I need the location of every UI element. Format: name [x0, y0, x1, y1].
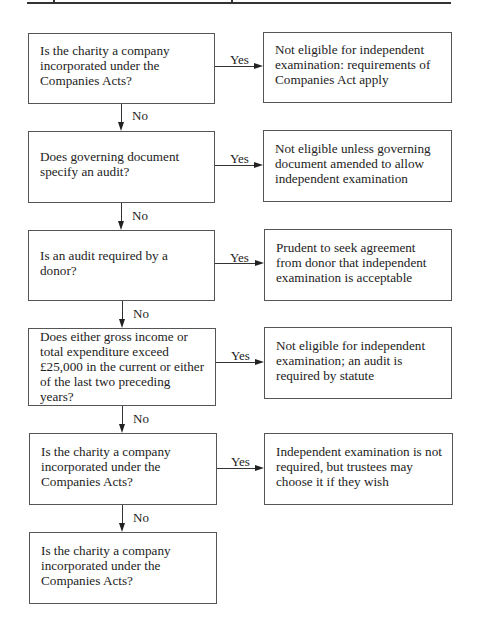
arrow-right-icon: [254, 63, 263, 69]
question-text: Does either gross income or total expend…: [40, 329, 205, 404]
no-connector: [122, 505, 123, 524]
outcome-text: Not eligible for independent examination…: [276, 338, 425, 383]
arrow-down-icon: [119, 523, 125, 532]
outcome-box-4: Not eligible for independent examination…: [264, 327, 452, 399]
question-box-1: Is the charity a company incorporated un…: [28, 33, 215, 104]
question-box-3: Is an audit required by a donor?: [28, 230, 215, 301]
outcome-text: Prudent to seek agreement from donor tha…: [276, 240, 427, 285]
question-box-6: Is the charity a company incorporated un…: [29, 532, 217, 604]
question-box-5: Is the charity a company incorporated un…: [29, 433, 217, 505]
no-label: No: [132, 109, 148, 123]
question-text: Is the charity a company incorporated un…: [41, 444, 171, 489]
no-label: No: [133, 511, 149, 525]
outcome-box-5: Independent examination is not required,…: [264, 433, 453, 505]
arrow-down-icon: [118, 122, 124, 131]
outcome-text: Independent examination is not required,…: [276, 444, 442, 489]
question-text: Is an audit required by a donor?: [40, 248, 204, 278]
question-text: Is the charity a company incorporated un…: [41, 543, 171, 588]
outcome-box-3: Prudent to seek agreement from donor tha…: [264, 229, 452, 301]
yes-label: Yes: [230, 152, 249, 166]
question-text: Is the charity a company incorporated un…: [40, 43, 170, 88]
arrow-right-icon: [255, 359, 264, 365]
outcome-text: Not eligible for independent examination…: [275, 42, 430, 87]
no-connector: [121, 104, 122, 123]
arrow-right-icon: [255, 465, 264, 471]
arrow-down-icon: [119, 319, 125, 328]
question-text: Does governing document specify an audit…: [40, 149, 179, 179]
no-label: No: [132, 209, 148, 223]
arrow-right-icon: [254, 162, 263, 168]
arrow-down-icon: [119, 424, 125, 433]
no-label: No: [133, 412, 149, 426]
header-rule: [27, 2, 451, 4]
yes-label: Yes: [231, 455, 250, 469]
yes-label: Yes: [231, 349, 250, 363]
header-text-descender: [231, 0, 233, 2]
arrow-down-icon: [118, 221, 124, 230]
question-box-4: Does either gross income or total expend…: [28, 328, 216, 406]
yes-label: Yes: [230, 251, 249, 265]
no-label: No: [133, 307, 149, 321]
arrow-right-icon: [255, 260, 264, 266]
no-connector: [122, 406, 123, 425]
outcome-box-2: Not eligible unless governing document a…: [263, 130, 452, 202]
yes-label: Yes: [230, 53, 249, 67]
no-connector: [121, 203, 122, 222]
header-text-descender: [53, 0, 55, 2]
no-connector: [122, 301, 123, 320]
outcome-box-1: Not eligible for independent examination…: [263, 32, 452, 103]
question-box-2: Does governing document specify an audit…: [28, 131, 215, 203]
outcome-text: Not eligible unless governing document a…: [275, 141, 431, 186]
